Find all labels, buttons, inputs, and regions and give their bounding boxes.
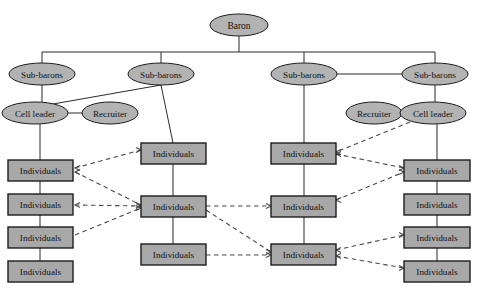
node-c2r2[interactable]: Individuals xyxy=(141,196,206,217)
node-shape-box-c1r1 xyxy=(8,160,73,181)
node-cell-left[interactable]: Cell leader xyxy=(2,102,68,124)
node-layer: BaronSub-baronsSub-baronsSub-baronsSub-b… xyxy=(2,14,470,282)
node-sub4[interactable]: Sub-barons xyxy=(402,63,468,85)
node-shape-ellipse-recr-left xyxy=(82,102,138,124)
dashed-arrowhead-12 xyxy=(399,169,404,174)
dashed-connector-cell-right-to-c3r1 xyxy=(336,122,410,152)
node-recr-right[interactable]: Recruiter xyxy=(346,102,402,124)
dashed-arrowhead-16 xyxy=(336,197,341,202)
dashed-connector-c3r2-to-c4r1 xyxy=(336,172,404,200)
node-c3r3[interactable]: Individuals xyxy=(271,244,336,265)
dashed-connector-c1r1-to-c2r1 xyxy=(75,150,141,168)
node-shape-box-c4r2 xyxy=(404,194,470,215)
dashed-edge-layer xyxy=(75,122,410,271)
node-shape-ellipse-sub4 xyxy=(402,63,468,85)
node-c4r4[interactable]: Individuals xyxy=(404,261,470,282)
node-c4r1[interactable]: Individuals xyxy=(404,160,470,181)
node-shape-box-c4r3 xyxy=(404,227,470,248)
node-c1r4[interactable]: Individuals xyxy=(8,261,73,282)
node-shape-ellipse-sub3 xyxy=(271,63,337,85)
dashed-connector-c1r1-to-c2r2 xyxy=(75,172,141,205)
network-hierarchy-diagram: BaronSub-baronsSub-baronsSub-baronsSub-b… xyxy=(0,0,478,300)
node-shape-box-c4r1 xyxy=(404,160,470,181)
node-c1r3[interactable]: Individuals xyxy=(8,227,73,248)
diagram-canvas: BaronSub-baronsSub-baronsSub-baronsSub-b… xyxy=(0,0,478,300)
node-shape-box-c1r2 xyxy=(8,194,73,215)
node-shape-box-c2r2 xyxy=(141,196,206,217)
solid-edge-layer xyxy=(36,36,437,261)
node-shape-ellipse-sub2 xyxy=(128,63,194,85)
dashed-arrowhead-7 xyxy=(266,203,271,208)
dashed-connector-c2r2-to-c3r3 xyxy=(206,210,271,252)
node-c2r1[interactable]: Individuals xyxy=(141,143,206,164)
node-c4r2[interactable]: Individuals xyxy=(404,194,470,215)
node-shape-box-c2r1 xyxy=(141,143,206,164)
node-c2r3[interactable]: Individuals xyxy=(141,244,206,265)
node-c3r2[interactable]: Individuals xyxy=(271,196,336,217)
node-shape-box-c4r4 xyxy=(404,261,470,282)
dashed-arrowhead-1 xyxy=(75,169,80,174)
node-shape-ellipse-cell-right xyxy=(400,102,466,124)
node-shape-box-c3r2 xyxy=(271,196,336,217)
node-c1r2[interactable]: Individuals xyxy=(8,194,73,215)
node-shape-ellipse-sub1 xyxy=(9,63,75,85)
node-shape-box-c3r1 xyxy=(271,143,336,164)
node-recr-left[interactable]: Recruiter xyxy=(82,102,138,124)
solid-connector-sub2-to-c2r1 xyxy=(161,85,173,143)
node-c3r1[interactable]: Individuals xyxy=(271,143,336,164)
node-shape-box-c2r3 xyxy=(141,244,206,265)
node-shape-ellipse-cell-left xyxy=(2,102,68,124)
dashed-arrowhead-4 xyxy=(136,147,141,152)
node-c4r3[interactable]: Individuals xyxy=(404,227,470,248)
dashed-connector-c1r2-to-c2r2 xyxy=(75,205,141,206)
dashed-connector-c1r3-to-c2r2 xyxy=(75,208,141,235)
node-sub3[interactable]: Sub-barons xyxy=(271,63,337,85)
dashed-connector-c3r1-to-c4r1 xyxy=(336,154,404,168)
node-cell-right[interactable]: Cell leader xyxy=(400,102,466,124)
dashed-connector-c3r3-to-c4r4 xyxy=(336,256,404,268)
dashed-arrowhead-9 xyxy=(266,252,271,257)
node-sub2[interactable]: Sub-barons xyxy=(128,63,194,85)
node-shape-ellipse-recr-right xyxy=(346,102,402,124)
node-sub1[interactable]: Sub-barons xyxy=(9,63,75,85)
node-shape-box-c1r3 xyxy=(8,227,73,248)
node-c1r1[interactable]: Individuals xyxy=(8,160,73,181)
dashed-connector-c3r3-to-c4r3 xyxy=(336,235,404,250)
node-shape-box-c3r3 xyxy=(271,244,336,265)
node-shape-ellipse-baron xyxy=(210,14,268,36)
node-shape-box-c1r4 xyxy=(8,261,73,282)
node-baron[interactable]: Baron xyxy=(210,14,268,36)
